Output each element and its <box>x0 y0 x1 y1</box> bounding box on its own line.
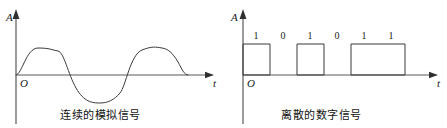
signal-comparison-figure: A t O 连续的模拟信号 <box>0 0 447 128</box>
analog-y-axis-label: A <box>6 12 13 23</box>
digital-pulse-bit-0 <box>243 44 270 75</box>
analog-y-axis <box>13 9 20 124</box>
digital-panel-caption: 离散的数字信号 <box>281 110 362 121</box>
digital-x-axis <box>243 72 438 79</box>
digital-bit-label-1: 0 <box>276 31 290 41</box>
analog-panel-caption: 连续的模拟信号 <box>60 110 141 121</box>
digital-y-axis-label: A <box>231 12 238 23</box>
analog-signal-panel: A t O 连续的模拟信号 <box>0 0 223 128</box>
digital-bit-label-2: 1 <box>303 31 317 41</box>
digital-bit-label-5: 1 <box>384 31 398 41</box>
analog-x-axis-label: t <box>213 78 216 89</box>
digital-signal-panel: A t O 1 0 1 0 1 1 离散的数字信号 <box>223 0 447 128</box>
digital-pulse-bit-2 <box>297 44 324 75</box>
analog-origin-label: O <box>20 78 28 89</box>
digital-bit-label-3: 0 <box>330 31 344 41</box>
digital-origin-label: O <box>247 78 255 89</box>
digital-x-axis-label: t <box>437 78 440 89</box>
digital-pulse-train <box>243 44 405 75</box>
digital-pulse-bit-4-5 <box>351 44 405 75</box>
digital-bit-label-0: 1 <box>249 31 263 41</box>
digital-bit-label-4: 1 <box>357 31 371 41</box>
